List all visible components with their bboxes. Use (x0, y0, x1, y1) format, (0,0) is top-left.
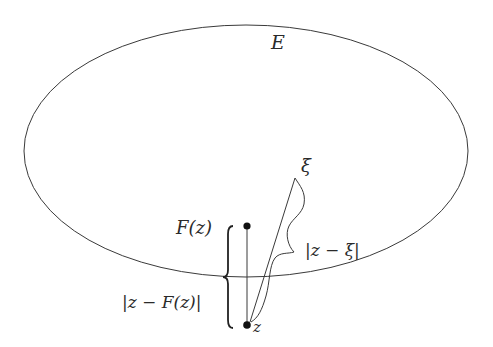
diagram-canvas: E F(z) z ξ |z − F(z)| |z − ξ| (0, 0, 493, 347)
set-e-label: E (270, 31, 285, 53)
point-z-label: z (252, 318, 261, 336)
distance-z-fz-label: |z − F(z)| (122, 292, 201, 312)
segment-z-xi (250, 178, 295, 322)
point-fz (243, 222, 250, 229)
point-xi-label: ξ (301, 155, 312, 176)
point-z (243, 321, 251, 329)
wavy-brace-z-xi (251, 178, 304, 322)
distance-z-xi-label: |z − ξ| (305, 240, 360, 260)
point-fz-label: F(z) (175, 217, 212, 238)
set-e-boundary (24, 25, 468, 277)
